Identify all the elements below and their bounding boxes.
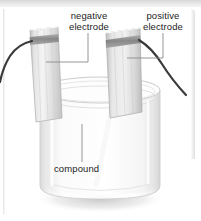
positive-electrode [106,28,142,118]
label-compound: compound [54,163,99,174]
label-negative-electrode: negative electrode [60,10,118,32]
label-negative-line2: electrode [60,21,118,32]
label-positive-line2: electrode [132,21,194,32]
negative-electrode [30,27,62,122]
electrolysis-diagram: negative electrode positive electrode co… [0,0,201,221]
illustration [0,0,201,221]
label-positive-line1: positive [132,10,194,21]
label-negative-line1: negative [60,10,118,21]
negative-wire [0,41,32,82]
label-positive-electrode: positive electrode [132,10,194,32]
